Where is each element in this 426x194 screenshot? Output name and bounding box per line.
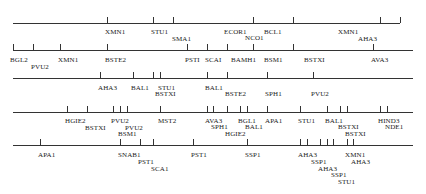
- dna-track-line: [13, 78, 413, 79]
- restriction-site-tick: [153, 139, 154, 145]
- restriction-enzyme-label: AVA3: [371, 57, 388, 64]
- restriction-enzyme-label: SPH1: [265, 91, 282, 98]
- restriction-enzyme-label: BSM1: [264, 57, 283, 64]
- restriction-enzyme-label: ECOR1: [224, 29, 247, 36]
- restriction-enzyme-label: BSM1: [118, 131, 137, 138]
- restriction-enzyme-label: BAMH1: [231, 57, 256, 64]
- restriction-enzyme-label: PVU2: [31, 64, 49, 71]
- restriction-enzyme-label: BSTE2: [225, 91, 246, 98]
- restriction-enzyme-label: NCO1: [245, 35, 264, 42]
- restriction-enzyme-label: HGIE2: [65, 118, 86, 125]
- restriction-site-tick: [87, 106, 88, 112]
- restriction-enzyme-label: PVU2: [311, 91, 329, 98]
- restriction-site-tick: [373, 44, 374, 50]
- dna-track-line: [13, 112, 413, 113]
- restriction-enzyme-label: XMN1: [105, 29, 125, 36]
- restriction-site-tick: [187, 44, 188, 50]
- dna-track-line: [13, 50, 413, 51]
- restriction-site-tick: [107, 44, 108, 50]
- restriction-site-tick: [100, 72, 101, 78]
- restriction-site-tick: [213, 106, 214, 112]
- restriction-enzyme-label: HGIE2: [225, 131, 246, 138]
- restriction-site-tick: [293, 44, 294, 50]
- restriction-enzyme-label: PST1: [191, 152, 207, 159]
- restriction-enzyme-label: XMN1: [58, 57, 78, 64]
- restriction-enzyme-label: SSP1: [245, 152, 261, 159]
- restriction-site-tick: [253, 17, 254, 23]
- restriction-site-tick: [380, 17, 381, 23]
- restriction-site-tick: [227, 44, 228, 50]
- restriction-site-tick: [247, 106, 248, 112]
- restriction-site-tick: [327, 139, 328, 145]
- restriction-enzyme-label: MST2: [158, 118, 176, 125]
- restriction-site-tick: [207, 106, 208, 112]
- restriction-site-tick: [300, 106, 301, 112]
- restriction-site-tick: [300, 139, 301, 145]
- restriction-site-tick: [347, 139, 348, 145]
- restriction-site-tick: [160, 106, 161, 112]
- restriction-site-tick: [107, 17, 108, 23]
- restriction-enzyme-label: AHA3: [358, 36, 377, 43]
- restriction-site-tick: [267, 72, 268, 78]
- restriction-enzyme-label: BGL2: [10, 57, 28, 64]
- restriction-enzyme-label: AHA3: [351, 159, 370, 166]
- restriction-site-tick: [227, 106, 228, 112]
- restriction-enzyme-label: BAL1: [205, 85, 223, 92]
- dna-track-line: [13, 145, 413, 146]
- restriction-enzyme-label: BAL1: [131, 85, 149, 92]
- restriction-site-tick: [133, 72, 134, 78]
- restriction-site-tick: [347, 106, 348, 112]
- restriction-site-tick: [313, 72, 314, 78]
- restriction-site-tick: [153, 17, 154, 23]
- restriction-enzyme-label: AHA3: [98, 85, 117, 92]
- restriction-site-tick: [353, 139, 354, 145]
- restriction-enzyme-label: BSTXI: [85, 125, 106, 132]
- restriction-site-tick: [153, 72, 154, 78]
- restriction-site-tick: [333, 139, 334, 145]
- restriction-site-tick: [67, 106, 68, 112]
- restriction-enzyme-label: BSTE2: [105, 57, 126, 64]
- restriction-enzyme-label: STU1: [151, 29, 168, 36]
- restriction-enzyme-label: BSTXI: [345, 131, 366, 138]
- restriction-site-tick: [13, 44, 14, 50]
- restriction-site-tick: [380, 106, 381, 112]
- restriction-site-tick: [173, 17, 174, 23]
- restriction-enzyme-label: BAL1: [245, 124, 263, 131]
- restriction-enzyme-label: XMN1: [338, 29, 358, 36]
- restriction-site-tick: [247, 139, 248, 145]
- restriction-enzyme-label: BSTXI: [155, 91, 176, 98]
- restriction-site-tick: [140, 139, 141, 145]
- restriction-enzyme-label: SCAI: [205, 57, 221, 64]
- restriction-site-tick: [193, 139, 194, 145]
- restriction-site-tick: [113, 106, 114, 112]
- restriction-enzyme-label: NDE1: [385, 124, 403, 131]
- restriction-site-tick: [40, 139, 41, 145]
- restriction-site-tick: [127, 106, 128, 112]
- restriction-enzyme-label: APA1: [38, 152, 55, 159]
- restriction-enzyme-label: SMA1: [172, 36, 191, 43]
- restriction-site-tick: [400, 17, 401, 23]
- restriction-enzyme-label: STU1: [338, 179, 355, 186]
- restriction-enzyme-label: APA1: [265, 118, 282, 125]
- restriction-enzyme-label: BCL1: [264, 29, 282, 36]
- restriction-site-tick: [120, 139, 121, 145]
- restriction-site-tick: [253, 44, 254, 50]
- restriction-site-tick: [227, 72, 228, 78]
- restriction-site-tick: [207, 44, 208, 50]
- restriction-site-tick: [240, 106, 241, 112]
- restriction-enzyme-label: STU1: [298, 118, 315, 125]
- restriction-site-tick: [293, 17, 294, 23]
- restriction-site-tick: [387, 106, 388, 112]
- restriction-site-tick: [340, 106, 341, 112]
- restriction-site-tick: [33, 44, 34, 50]
- restriction-site-tick: [327, 106, 328, 112]
- restriction-map-diagram: XMN1STU1SMA1ECOR1NCO1BCL1XMN1AHA3BGL2PVU…: [0, 0, 426, 194]
- restriction-enzyme-label: PSTI: [185, 57, 200, 64]
- restriction-site-tick: [120, 106, 121, 112]
- restriction-site-tick: [207, 72, 208, 78]
- restriction-enzyme-label: BSTXI: [304, 57, 325, 64]
- restriction-site-tick: [267, 106, 268, 112]
- restriction-site-tick: [307, 139, 308, 145]
- dna-track-line: [13, 23, 400, 24]
- restriction-site-tick: [160, 72, 161, 78]
